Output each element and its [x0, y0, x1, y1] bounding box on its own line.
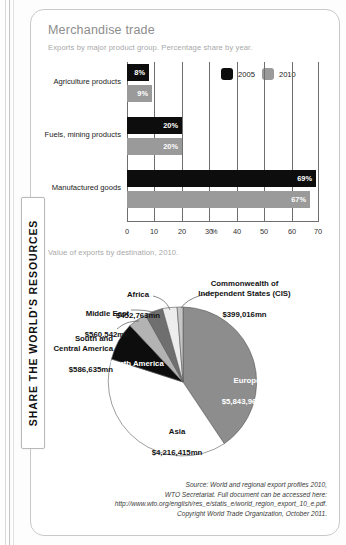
bar-category-label-agriculture: Agriculture products: [53, 77, 121, 86]
page-title: Merchandise trade: [48, 23, 155, 37]
page-subtitle: Exports by major product group. Percenta…: [48, 43, 253, 52]
bar-manufactured-2010: 67%: [127, 191, 310, 208]
bar-value-agriculture-2005: 8%: [134, 68, 149, 77]
x-tick-10: 10: [150, 227, 158, 236]
x-tick-30: 30: [205, 227, 213, 236]
pie-label-north-america-name: North America: [91, 359, 183, 370]
page-edge-line-2: [9, 0, 10, 545]
bar-agriculture-2005: 8%: [127, 64, 149, 81]
bar-value-fuels-2005: 20%: [163, 121, 182, 130]
bar-agriculture-2010: 9%: [127, 85, 152, 102]
bar-value-manufactured-2005: 69%: [297, 174, 316, 183]
pie-chart-caption: Value of exports by destination, 2010.: [48, 248, 178, 257]
pie-label-europe-name: Europe: [197, 376, 297, 387]
leader-line-middle-east: [131, 310, 155, 313]
bar-value-agriculture-2010: 9%: [137, 89, 152, 98]
pie-slice-middle-east: [146, 309, 184, 383]
pie-slice-north-america: [112, 326, 184, 383]
bar-value-manufactured-2010: 67%: [291, 195, 310, 204]
sidebar-vertical-tab: SHARE THE WORLD'S RESOURCES: [21, 197, 45, 449]
source-line-4: Copyright World Trade Organization, Octo…: [77, 509, 327, 519]
bar-category-label-manufactured: Manufactured goods: [52, 183, 121, 192]
leader-line-africa: [153, 296, 170, 310]
bar-fuels-2010: 20%: [127, 138, 182, 155]
source-line-1: Source: World and regional export profil…: [77, 480, 327, 490]
pie-label-europe: Europe $5,843,967mn: [197, 365, 297, 418]
pie-callout-cis-name: Commonwealth of Independent States (CIS): [182, 279, 307, 300]
x-axis-line: [127, 221, 319, 222]
x-tick-70: 70: [314, 227, 322, 236]
page-edge-line-1: [5, 0, 6, 545]
pie-label-asia: Asia $4,216,415mn: [127, 416, 227, 469]
source-line-2: WTO Secretariat. Full document can be ac…: [77, 490, 327, 500]
page-edge-line-3: [13, 0, 14, 545]
pie-callout-cis: Commonwealth of Independent States (CIS)…: [182, 268, 307, 331]
pie-slice-south-central-america: [130, 315, 183, 382]
x-tick-60: 60: [288, 227, 296, 236]
pie-slice-asia: [108, 359, 224, 456]
pie-callout-cis-value: $399,016mn: [182, 310, 307, 321]
bar-chart: 2005 2010 Agriculture product: [31, 56, 341, 238]
pie-label-asia-name: Asia: [127, 427, 227, 438]
x-tick-40: 40: [233, 227, 241, 236]
leader-line-south-central-america: [117, 321, 139, 329]
pie-callout-africa-value: $452,763mn: [99, 311, 177, 322]
source-note: Source: World and regional export profil…: [77, 480, 327, 518]
leader-line-cis: [181, 292, 217, 308]
pie-callout-middle-east-value: $560,542mn: [39, 330, 129, 341]
x-tick-50: 50: [260, 227, 268, 236]
bar-manufactured-2005: 69%: [127, 170, 316, 187]
source-line-3: http://www.wto.org/english/res_e/statis_…: [77, 499, 327, 509]
content-card: Merchandise trade Exports by major produ…: [30, 9, 340, 536]
pie-callout-middle-east: Middle East $560,542mn: [39, 298, 129, 351]
pie-label-asia-value: $4,216,415mn: [127, 448, 227, 459]
bar-category-label-fuels: Fuels, mining products: [45, 130, 121, 139]
bar-fuels-2005: 20%: [127, 117, 182, 134]
gridline-70: [318, 62, 319, 222]
pie-slice-cis: [177, 307, 183, 382]
x-tick-0: 0: [125, 227, 129, 236]
pie-callout-africa-name: Africa: [99, 290, 177, 301]
pie-label-north-america: North America $2,508,397mn: [91, 348, 183, 401]
pie-callout-middle-east-name: Middle East: [39, 309, 129, 320]
pie-callout-africa: Africa $452,763mn: [99, 279, 177, 332]
sidebar-tab-label: SHARE THE WORLD'S RESOURCES: [27, 220, 39, 426]
pie-label-europe-value: $5,843,967mn: [197, 397, 297, 408]
pie-slice-europe: [183, 307, 257, 444]
x-tick-20: 20: [178, 227, 186, 236]
pie-label-north-america-value: $2,508,397mn: [91, 380, 183, 391]
bar-chart-plot-area: Agriculture products 8% 9% Fuels, mining…: [127, 62, 319, 222]
pie-slice-africa: [163, 307, 184, 382]
bar-value-fuels-2010: 20%: [163, 142, 182, 151]
